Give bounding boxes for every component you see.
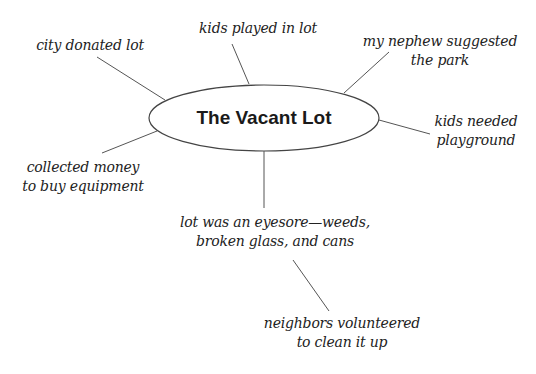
node-collected-money: collected money to buy equipment [18,158,148,196]
node-text: city donated lot [30,36,150,55]
node-text: my nephew suggested [360,32,520,51]
node-text: collected money [18,158,148,177]
node-neighbors-volunteered: neighbors volunteered to clean it up [262,314,422,352]
node-kids-needed: kids needed playground [426,112,526,150]
edge-neighbors-volunteered [293,260,329,311]
node-text: to buy equipment [18,177,148,196]
edge-kids-played [232,44,249,84]
node-text: kids needed [426,112,526,131]
node-text: broken glass, and cans [170,232,380,251]
node-eyesore: lot was an eyesore—weeds, broken glass, … [170,213,380,251]
node-text: lot was an eyesore—weeds, [170,213,380,232]
node-text: to clean it up [262,333,422,352]
node-city-donated: city donated lot [30,36,150,55]
node-kids-played: kids played in lot [188,19,328,38]
node-text: playground [426,131,526,150]
center-topic: The Vacant Lot [149,85,379,151]
node-text: neighbors volunteered [262,314,422,333]
node-text: the park [360,51,520,70]
node-text: kids played in lot [188,19,328,38]
edge-kids-needed [379,120,430,134]
node-nephew-suggested: my nephew suggested the park [360,32,520,70]
